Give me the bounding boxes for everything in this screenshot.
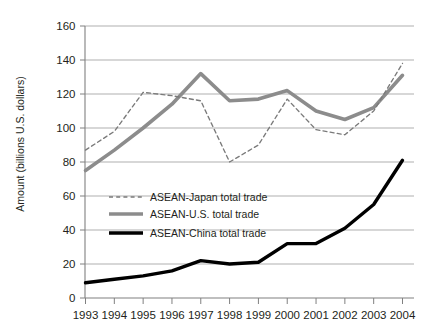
y-axis-title: Amount (billions U.S. dollars) (14, 76, 26, 211)
x-tick-label: 1999 (246, 309, 272, 321)
x-axis-ticks: 1993199419951996199719981999200020012002… (73, 298, 416, 321)
legend: ASEAN-Japan total tradeASEAN-U.S. total … (109, 191, 267, 239)
series-line-1 (86, 74, 403, 171)
legend-label-1: ASEAN-U.S. total trade (150, 208, 259, 220)
y-tick-label: 100 (56, 122, 75, 134)
y-gridlines: 020406080100120140160 (56, 20, 414, 304)
y-tick-label: 60 (63, 190, 76, 202)
legend-label-2: ASEAN-China total trade (150, 227, 266, 239)
series-line-0 (86, 63, 403, 162)
x-tick-label: 1996 (159, 309, 185, 321)
line-chart: 0204060801001201401601993199419951996199… (0, 0, 426, 330)
x-tick-label: 2004 (390, 309, 416, 321)
x-tick-label: 1995 (130, 309, 156, 321)
x-tick-label: 1997 (188, 309, 214, 321)
legend-label-0: ASEAN-Japan total trade (150, 191, 267, 203)
x-tick-label: 2003 (361, 309, 387, 321)
x-tick-label: 1998 (217, 309, 243, 321)
y-tick-label: 80 (63, 156, 76, 168)
y-tick-label: 40 (63, 224, 76, 236)
x-tick-label: 2002 (332, 309, 358, 321)
x-tick-label: 2000 (274, 309, 300, 321)
chart-canvas: 0204060801001201401601993199419951996199… (0, 0, 426, 330)
x-tick-label: 1994 (102, 309, 128, 321)
y-tick-label: 20 (63, 258, 76, 270)
y-tick-label: 160 (56, 20, 75, 32)
x-tick-label: 1993 (73, 309, 99, 321)
y-tick-label: 0 (69, 292, 75, 304)
y-tick-label: 120 (56, 88, 75, 100)
series-group (86, 63, 403, 282)
y-tick-label: 140 (56, 54, 75, 66)
x-tick-label: 2001 (303, 309, 329, 321)
